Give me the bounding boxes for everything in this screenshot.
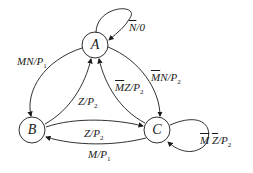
edge-b-to-a-label: Z/P2: [78, 96, 97, 110]
state-diagram: A B C N/0 MN/P1 Z/P2 MN/P2 MZ/P2 Z/P2 M/…: [0, 0, 253, 173]
edge-b-to-a: [45, 59, 91, 124]
state-c-label: C: [147, 123, 167, 137]
edge-a-self-label: N/0: [129, 22, 145, 33]
edge-b-to-c: [46, 120, 143, 127]
edge-a-self: [96, 9, 131, 40]
state-b-label: B: [22, 123, 42, 137]
edge-b-to-c-label: Z/P2: [84, 128, 103, 142]
state-a-label: A: [85, 38, 105, 52]
edge-a-to-b-label: MN/P1: [17, 56, 47, 70]
edge-c-to-b-label: M/P1: [88, 149, 110, 163]
edge-c-self-label: M Z/P2: [200, 135, 231, 149]
edge-a-to-c-label: MN/P2: [151, 72, 181, 86]
edge-c-to-a-label: MZ/P2: [115, 82, 144, 96]
